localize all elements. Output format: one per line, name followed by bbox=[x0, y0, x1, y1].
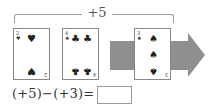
club-icon: ♣ bbox=[83, 34, 92, 44]
card-rank: 3 bbox=[165, 72, 168, 77]
spade-icon: ♠ bbox=[137, 36, 141, 41]
spade-icon: ♠ bbox=[149, 50, 158, 60]
equation-text: (+5)−(+3)= bbox=[12, 87, 94, 101]
card-rank: 2 bbox=[44, 72, 47, 77]
spade-icon: ♠ bbox=[149, 66, 158, 76]
arrow-shaft bbox=[170, 41, 188, 70]
club-icon: ♣ bbox=[71, 66, 80, 76]
heart-icon: ♥ bbox=[16, 36, 20, 41]
club-icon: ♣ bbox=[83, 66, 92, 76]
card-three-of-spades: 3 ♠ ♠ ♠ ♠ 3 bbox=[134, 28, 171, 80]
spade-icon: ♠ bbox=[149, 34, 158, 44]
arrow-tail bbox=[110, 41, 136, 70]
heart-icon: ♥ bbox=[27, 66, 36, 76]
club-icon: ♣ bbox=[65, 36, 69, 41]
bracket-label: +5 bbox=[82, 6, 112, 20]
heart-icon: ♥ bbox=[27, 34, 36, 44]
club-icon: ♣ bbox=[71, 34, 80, 44]
card-four-of-clubs: 4 ♣ ♣ ♣ ♣ ♣ 4 bbox=[62, 28, 99, 80]
answer-box[interactable] bbox=[97, 86, 132, 104]
card-two-of-hearts: 2 ♥ ♥ ♥ 2 bbox=[13, 28, 50, 80]
arrow-head-icon bbox=[188, 33, 205, 77]
card-rank: 4 bbox=[93, 72, 96, 77]
